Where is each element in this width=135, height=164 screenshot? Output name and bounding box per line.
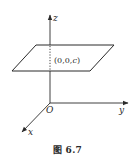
origin-label: O — [46, 105, 54, 115]
point-label-suffix: ) — [77, 56, 80, 65]
coordinate-plane-figure: z y x O (0,0,c) 图 6.7 — [0, 0, 135, 164]
point-label-prefix: (0,0, — [54, 56, 72, 65]
x-axis-label: x — [28, 127, 33, 137]
z-axis-label: z — [52, 13, 58, 23]
figure-caption: 图 6.7 — [0, 143, 135, 156]
plane-point-label: (0,0,c) — [54, 56, 80, 65]
diagram-canvas: z y x O (0,0,c) — [0, 0, 135, 164]
y-axis-label: y — [118, 105, 125, 115]
